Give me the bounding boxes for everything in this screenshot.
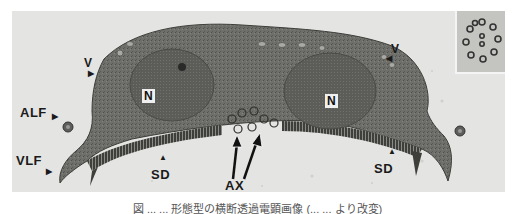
micrograph-figure: V ▶ V ◀ ALF ▶ VLF ▶ N N ▲ SD ▲ SD AX — [12, 11, 505, 192]
caption-text: 図 ... ... 形態型の横断透過電顕画像 (... ... より改変) — [133, 204, 382, 214]
ax-arrows — [12, 11, 505, 192]
figure-caption: 図 ... ... 形態型の横断透過電顕画像 (... ... より改変) — [0, 204, 515, 214]
label-ax: AX — [225, 179, 244, 192]
